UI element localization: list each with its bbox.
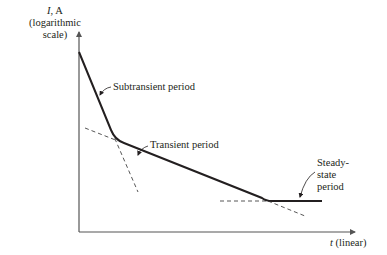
y-axis-unit: , A <box>51 5 63 16</box>
steady-state-leader <box>300 172 315 197</box>
steady-state-label: Steady- state period <box>317 157 349 193</box>
current-envelope-curve <box>79 52 322 201</box>
x-axis-unit: (linear) <box>333 237 367 248</box>
subtransient-asymptote <box>112 132 138 192</box>
steady-state-line2: state <box>317 169 349 181</box>
x-axis-label: t (linear) <box>330 237 366 249</box>
steady-state-line1: Steady- <box>317 157 349 169</box>
subtransient-leader <box>100 87 111 95</box>
y-axis-scale-line2: scale) <box>25 29 85 41</box>
y-axis-scale-line1: (logarithmic <box>25 17 85 29</box>
steady-state-line3: period <box>317 181 349 193</box>
y-axis-label: I, A (logarithmic scale) <box>25 5 85 41</box>
transient-asymptote-right <box>268 201 305 216</box>
subtransient-label: Subtransient period <box>113 81 195 93</box>
transient-label: Transient period <box>150 139 219 151</box>
